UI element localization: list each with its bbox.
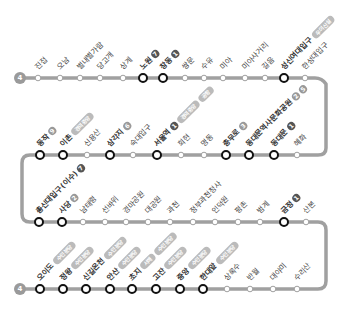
station-marker[interactable] (82, 285, 90, 293)
line-4-start-badge: 4 (14, 72, 26, 84)
station-marker[interactable] (176, 285, 184, 293)
station-marker[interactable] (35, 218, 43, 226)
station-marker[interactable] (270, 286, 276, 292)
station-marker[interactable] (201, 75, 207, 81)
station-marker[interactable] (212, 219, 218, 225)
station-marker[interactable] (199, 285, 207, 293)
station-marker[interactable] (235, 219, 241, 225)
subway-line-map: 4 4 진접오남별내별가람당고개상계노원7창동1쌍문수유미아미아사거리길음성신여… (0, 0, 355, 310)
station-marker[interactable] (97, 75, 103, 81)
station-marker[interactable] (59, 285, 67, 293)
station-marker[interactable] (84, 152, 90, 158)
station-marker[interactable] (59, 151, 67, 159)
station-marker[interactable] (178, 152, 184, 158)
station-marker[interactable] (153, 151, 161, 159)
station-marker[interactable] (303, 219, 309, 225)
station-marker[interactable] (120, 75, 126, 81)
station-marker[interactable] (245, 151, 253, 159)
station-marker[interactable] (57, 75, 63, 81)
station-marker[interactable] (36, 285, 44, 293)
station-marker[interactable] (159, 74, 167, 82)
station-marker[interactable] (222, 151, 230, 159)
station-marker[interactable] (242, 75, 248, 81)
station-marker[interactable] (152, 285, 160, 293)
station-marker[interactable] (167, 219, 173, 225)
station-marker[interactable] (102, 219, 108, 225)
line-4-end-badge: 4 (14, 283, 26, 295)
station-marker[interactable] (106, 151, 114, 159)
station-marker[interactable] (257, 219, 263, 225)
station-marker[interactable] (190, 219, 196, 225)
station-marker[interactable] (58, 218, 66, 226)
station-marker[interactable] (77, 75, 83, 81)
station-marker[interactable] (130, 152, 136, 158)
station-marker[interactable] (80, 219, 86, 225)
station-marker[interactable] (220, 75, 226, 81)
station-marker[interactable] (247, 286, 253, 292)
station-marker[interactable] (128, 285, 136, 293)
station-marker[interactable] (280, 74, 288, 82)
station-marker[interactable] (224, 286, 230, 292)
station-marker[interactable] (36, 151, 44, 159)
station-marker[interactable] (262, 75, 268, 81)
station-marker[interactable] (182, 75, 188, 81)
station-marker[interactable] (294, 152, 300, 158)
station-marker[interactable] (139, 74, 147, 82)
station-marker[interactable] (270, 151, 278, 159)
station-marker[interactable] (106, 285, 114, 293)
station-marker[interactable] (280, 218, 288, 226)
station-marker[interactable] (145, 219, 151, 225)
station-marker[interactable] (123, 219, 129, 225)
station-marker[interactable] (201, 152, 207, 158)
station-marker[interactable] (294, 286, 300, 292)
station-marker[interactable] (302, 75, 308, 81)
station-marker[interactable] (35, 75, 41, 81)
